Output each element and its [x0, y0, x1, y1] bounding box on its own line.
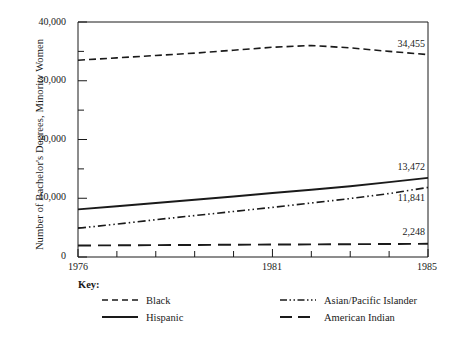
legend-entry-american-indian: American Indian	[280, 310, 395, 324]
y-axis-ticks	[78, 22, 87, 257]
x-axis-ticks	[78, 249, 428, 257]
legend-swatch-american-indian-icon	[280, 312, 316, 322]
legend-entry-hispanic: Hispanic	[102, 310, 183, 324]
legend-label-black: Black	[146, 295, 171, 306]
series-line-american-indian	[78, 244, 428, 246]
legend-entry-black: Black	[102, 293, 171, 307]
series-line-hispanic	[78, 178, 428, 210]
legend-swatch-asian-pacific-islander-icon	[280, 295, 316, 305]
series-lines	[78, 46, 428, 246]
legend-swatch-black-icon	[102, 295, 138, 305]
legend-label-asian-pacific-islander: Asian/Pacific Islander	[324, 295, 417, 306]
chart-figure: Number of Bachelor's Degrees, Minority W…	[0, 0, 468, 340]
plot-frame	[78, 22, 428, 257]
series-line-black	[78, 46, 428, 61]
legend-label-hispanic: Hispanic	[146, 312, 183, 323]
series-line-asian-pacific-islander	[78, 187, 428, 228]
legend: Key: Black Hispanic Asian/Pacific Island…	[78, 279, 458, 293]
legend-entry-asian-pacific-islander: Asian/Pacific Islander	[280, 293, 417, 307]
legend-swatch-hispanic-icon	[102, 312, 138, 322]
legend-title: Key:	[78, 279, 458, 290]
legend-label-american-indian: American Indian	[324, 312, 395, 323]
